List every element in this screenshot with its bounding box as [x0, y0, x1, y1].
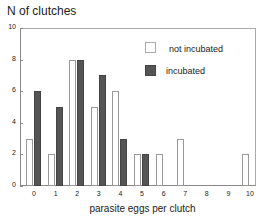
y-tick-label: 6 — [0, 86, 16, 93]
x-axis-title: parasite eggs per clutch — [0, 203, 265, 214]
y-tick-mark — [20, 91, 23, 92]
bar-not-incubated — [48, 154, 55, 186]
y-tick-mark — [20, 186, 23, 187]
legend-label: incubated — [166, 66, 205, 76]
x-tick-label: 10 — [244, 190, 256, 197]
x-tick-label: 8 — [201, 190, 213, 197]
bar-incubated — [77, 60, 84, 186]
y-axis-title: N of clutches — [7, 4, 76, 18]
y-tick-mark — [20, 123, 23, 124]
x-tick-label: 2 — [71, 190, 83, 197]
x-tick-label: 9 — [222, 190, 234, 197]
bar-not-incubated — [26, 139, 33, 186]
bar-not-incubated — [156, 154, 163, 186]
legend-label: not incubated — [169, 44, 223, 54]
bar-not-incubated — [134, 154, 141, 186]
x-tick-label: 4 — [114, 190, 126, 197]
x-tick-label: 1 — [50, 190, 62, 197]
y-tick-mark — [20, 28, 23, 29]
y-tick-label: 2 — [0, 149, 16, 156]
legend-swatch-incubated — [145, 65, 156, 76]
y-tick-label: 8 — [0, 55, 16, 62]
bar-not-incubated — [177, 139, 184, 186]
y-tick-mark — [20, 60, 23, 61]
y-tick-label: 0 — [0, 181, 16, 188]
bar-incubated — [120, 139, 127, 186]
legend-swatch-not-incubated — [145, 42, 156, 53]
y-tick-label: 10 — [0, 23, 16, 30]
bar-not-incubated — [69, 60, 76, 186]
x-tick-label: 0 — [28, 190, 40, 197]
bar-not-incubated — [242, 154, 249, 186]
bar-incubated — [99, 75, 106, 186]
x-tick-label: 5 — [136, 190, 148, 197]
x-tick-label: 6 — [158, 190, 170, 197]
x-tick-label: 3 — [93, 190, 105, 197]
bar-incubated — [142, 154, 149, 186]
y-tick-label: 4 — [0, 118, 16, 125]
bar-not-incubated — [91, 107, 98, 186]
bar-incubated — [56, 107, 63, 186]
bar-incubated — [34, 91, 41, 186]
y-tick-mark — [20, 154, 23, 155]
x-tick-label: 7 — [179, 190, 191, 197]
bar-not-incubated — [112, 91, 119, 186]
